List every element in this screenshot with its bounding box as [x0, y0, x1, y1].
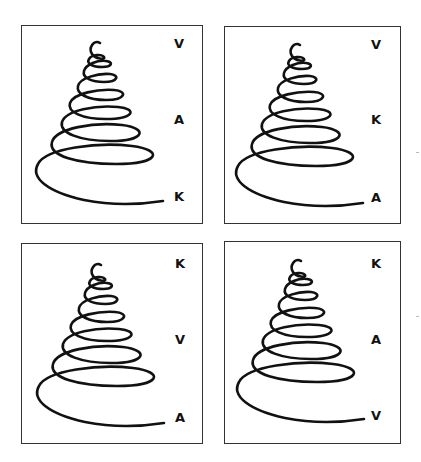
spiral-label-middle: V	[175, 333, 185, 346]
spiral-label-top: V	[174, 37, 184, 50]
scan-speck	[416, 152, 419, 153]
spiral-label-bottom: A	[175, 411, 185, 424]
spiral-label-middle: A	[174, 113, 184, 126]
spiral-line	[37, 264, 164, 426]
spiral-line	[36, 42, 163, 204]
spiral-line	[237, 260, 364, 422]
spiral-panel-bottom-left: K V A	[21, 243, 203, 444]
spiral-panel-top-left: V A K	[21, 25, 203, 224]
spiral-label-top: K	[175, 257, 185, 270]
spiral-label-top: V	[371, 38, 381, 51]
spiral-panel-top-right: V K A	[224, 26, 401, 224]
spiral-panel-bottom-right: K A V	[224, 241, 401, 444]
spiral-label-bottom: V	[371, 409, 381, 422]
spiral-line	[236, 44, 363, 206]
spiral-label-bottom: K	[174, 190, 184, 203]
spiral-label-middle: K	[371, 113, 381, 126]
spiral-label-middle: A	[371, 333, 381, 346]
spiral-label-bottom: A	[371, 191, 381, 204]
scan-speck	[416, 316, 419, 317]
spiral-label-top: K	[371, 257, 381, 270]
